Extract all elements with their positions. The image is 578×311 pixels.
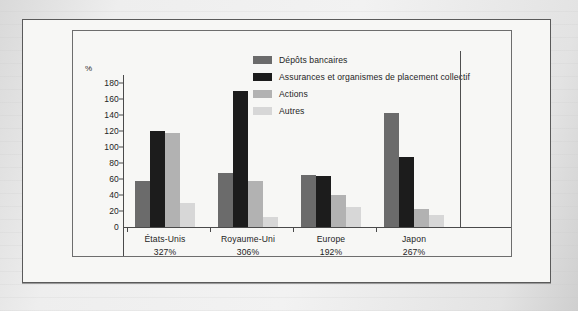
x-axis-line: [123, 227, 511, 228]
x-axis-group-label: Royaume-Uni306%: [203, 234, 293, 257]
bar: [399, 157, 414, 227]
x-axis-group-label: Japon267%: [369, 234, 459, 257]
plot-box: % 020406080100120140160180 Dépôts bancai…: [72, 30, 512, 257]
legend-swatch-depots-bancaires: [253, 56, 272, 64]
x-axis-group-total: 327%: [120, 247, 210, 257]
bar: [316, 176, 331, 227]
y-axis-unit-label: %: [85, 64, 92, 73]
legend-item: Dépôts bancaires: [253, 53, 470, 67]
x-axis-tick-mark: [210, 228, 211, 232]
bar: [429, 215, 444, 227]
bar: [263, 217, 278, 227]
x-axis-group-total: 267%: [369, 247, 459, 257]
x-axis-tick-mark: [293, 228, 294, 232]
bar: [218, 173, 233, 227]
plot-right-rule: [460, 51, 461, 227]
y-axis-tick-label: 20: [73, 206, 119, 216]
x-axis-tick-mark: [376, 228, 377, 232]
x-axis-tick-mark: [127, 228, 128, 232]
x-axis-group-name: Europe: [317, 234, 346, 244]
bar-group: [135, 75, 195, 227]
bar: [150, 131, 165, 227]
y-axis-tick-label: 180: [73, 78, 119, 88]
bar-group: [301, 75, 361, 227]
x-axis-group-label: États-Unis327%: [120, 234, 210, 257]
y-axis-tick-label: 100: [73, 142, 119, 152]
bar: [346, 207, 361, 227]
bar: [414, 209, 429, 227]
y-axis-tick-label: 40: [73, 190, 119, 200]
bar-group: [384, 75, 444, 227]
x-axis-group-name: Royaume-Uni: [221, 234, 275, 244]
bar: [233, 91, 248, 227]
y-axis-tick-label: 80: [73, 158, 119, 168]
bar: [301, 175, 316, 227]
y-axis-tick-label: 140: [73, 110, 119, 120]
y-axis-tick-label: 120: [73, 126, 119, 136]
y-axis-tick-label: 160: [73, 94, 119, 104]
y-axis-tick-label: 60: [73, 174, 119, 184]
bar: [135, 181, 150, 227]
bar: [165, 133, 180, 227]
legend-label-depots-bancaires: Dépôts bancaires: [279, 55, 347, 65]
x-axis-group-total: 306%: [203, 247, 293, 257]
x-axis-group-total: 192%: [286, 247, 376, 257]
bar: [331, 195, 346, 227]
bar: [248, 181, 263, 227]
x-axis-group-name: Japon: [402, 234, 426, 244]
x-axis-group-label: Europe192%: [286, 234, 376, 257]
x-axis-group-name: États-Unis: [144, 234, 185, 244]
bar-group: [218, 75, 278, 227]
y-axis-tick-label: 0: [73, 222, 119, 232]
y-axis-line: [123, 75, 124, 256]
bar: [180, 203, 195, 227]
bar-chart: % 020406080100120140160180 Dépôts bancai…: [73, 31, 511, 256]
figure-frame: % 020406080100120140160180 Dépôts bancai…: [22, 19, 551, 283]
bar: [384, 113, 399, 227]
